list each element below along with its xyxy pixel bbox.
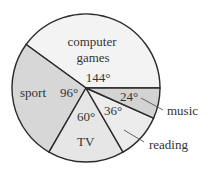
label-reading-angle: 36°	[104, 103, 122, 118]
label-tv-angle: 60°	[77, 109, 95, 124]
label-computer-games-line2: games	[76, 50, 109, 65]
label-tv: TV	[77, 134, 95, 149]
label-sport: sport	[20, 85, 46, 100]
label-computer-games-line1: computer	[67, 34, 117, 49]
pie-chart: computer games 144° sport 96° 60° TV 36°…	[0, 0, 212, 178]
label-reading: reading	[149, 137, 188, 152]
label-computer-games-angle: 144°	[86, 70, 111, 85]
label-music-angle: 24°	[120, 89, 138, 104]
label-music: music	[167, 103, 198, 118]
label-sport-angle: 96°	[60, 85, 78, 100]
